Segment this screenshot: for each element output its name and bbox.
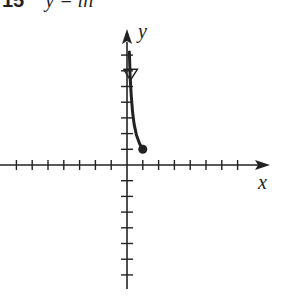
y-axis-arrow-icon — [122, 29, 132, 44]
graph — [0, 0, 283, 298]
x-axis-label: x — [258, 171, 267, 194]
function-curve — [129, 52, 142, 149]
x-axis — [0, 160, 270, 170]
closed-endpoint-dot — [138, 145, 147, 154]
y-axis-label: y — [138, 20, 147, 43]
